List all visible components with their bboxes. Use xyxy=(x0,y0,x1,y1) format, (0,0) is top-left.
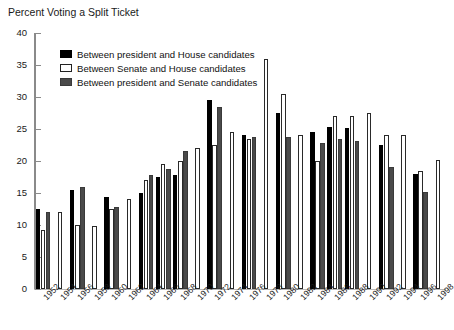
bar xyxy=(46,212,51,289)
y-axis-tick-label: 35 xyxy=(16,59,27,70)
bar xyxy=(384,135,389,289)
bar xyxy=(345,128,350,289)
bar-group xyxy=(429,33,446,289)
y-axis-tick-label: 25 xyxy=(16,123,27,134)
bar-group xyxy=(360,33,377,289)
x-axis-labels: 1952195419561958196019621964196619681970… xyxy=(34,291,446,330)
legend-item: Between president and Senate candidates xyxy=(60,76,257,89)
bar xyxy=(298,135,303,289)
bar xyxy=(212,145,217,289)
legend-swatch-icon xyxy=(60,50,72,58)
bar xyxy=(36,209,41,289)
bar xyxy=(178,161,183,289)
bar xyxy=(127,199,132,289)
bar-group xyxy=(377,33,394,289)
bar xyxy=(367,113,372,289)
bar-group xyxy=(257,33,274,289)
bar xyxy=(70,190,75,289)
bar xyxy=(418,171,423,289)
bar xyxy=(436,160,441,289)
legend-item: Between president and House candidates xyxy=(60,48,257,61)
legend-item-label: Between president and Senate candidates xyxy=(77,77,257,88)
bar-group xyxy=(274,33,291,289)
bar xyxy=(161,164,166,289)
bar xyxy=(217,107,222,289)
bar xyxy=(104,197,109,289)
bar xyxy=(338,139,343,289)
bar xyxy=(413,174,418,289)
y-axis-tick-label: 20 xyxy=(16,155,27,166)
bar xyxy=(41,230,46,289)
bar xyxy=(350,116,355,289)
bar xyxy=(247,139,252,289)
bar xyxy=(149,175,154,289)
bar-group xyxy=(326,33,343,289)
y-axis-tick-label: 10 xyxy=(16,219,27,230)
bar xyxy=(320,143,325,289)
bar xyxy=(183,151,188,289)
bar xyxy=(281,94,286,289)
bar xyxy=(166,169,171,289)
y-axis-tick-label: 30 xyxy=(16,91,27,102)
bar xyxy=(252,137,257,289)
y-axis-tick-label: 15 xyxy=(16,187,27,198)
bar xyxy=(75,225,80,289)
y-axis-tick-label: 5 xyxy=(22,251,27,262)
legend-item-label: Between Senate and House candidates xyxy=(77,63,246,74)
bar-group xyxy=(343,33,360,289)
bar-group xyxy=(34,33,51,289)
bar xyxy=(401,135,406,289)
bar xyxy=(144,180,149,289)
bar xyxy=(286,137,291,289)
chart-title: Percent Voting a Split Ticket xyxy=(8,6,139,18)
legend-swatch-icon xyxy=(60,64,72,72)
bar xyxy=(114,207,119,289)
bar xyxy=(156,177,161,289)
bar-group xyxy=(412,33,429,289)
bar-group xyxy=(309,33,326,289)
bar xyxy=(109,209,114,289)
bar xyxy=(333,116,338,289)
legend-item: Between Senate and House candidates xyxy=(60,62,257,75)
y-axis-tick-label: 0 xyxy=(22,283,27,294)
bar xyxy=(310,132,315,289)
bar xyxy=(80,187,85,289)
bar xyxy=(327,127,332,289)
bar xyxy=(242,135,247,289)
chart-container: Percent Voting a Split Ticket 0510152025… xyxy=(0,0,454,330)
y-axis-tick-label: 40 xyxy=(16,27,27,38)
bar xyxy=(379,145,384,289)
bar xyxy=(207,100,212,289)
bar xyxy=(173,175,178,289)
legend-swatch-icon xyxy=(60,78,72,86)
bar xyxy=(389,167,394,289)
legend-item-label: Between president and House candidates xyxy=(77,49,255,60)
bar xyxy=(315,161,320,289)
y-axis-tick-mark xyxy=(35,289,41,290)
legend: Between president and House candidatesBe… xyxy=(60,48,257,90)
bar xyxy=(276,113,281,289)
bar xyxy=(423,192,428,289)
bar xyxy=(264,59,269,289)
bar-group xyxy=(395,33,412,289)
bar xyxy=(92,226,97,289)
bar xyxy=(139,193,144,289)
bar-group xyxy=(292,33,309,289)
bar xyxy=(355,141,360,289)
bar xyxy=(195,148,200,289)
bar xyxy=(58,212,63,289)
bar xyxy=(230,132,235,289)
